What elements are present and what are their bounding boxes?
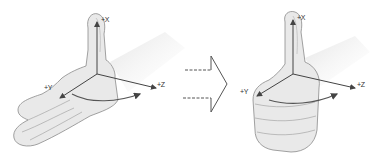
z-axis-label: +Z [357,81,365,88]
thumbs-up-illustration: +X +Y +Z [225,0,375,163]
hand-shape [14,14,118,146]
z-axis-label: +Z [157,81,165,88]
y-axis-label: +Y [240,88,248,95]
y-axis-label: +Y [44,84,52,91]
x-axis-label: +X [297,14,305,21]
x-axis-label: +X [101,16,109,23]
fist-shape [253,11,319,152]
forearm-shape [110,32,185,92]
open-hand-illustration: +X +Y +Z [0,0,190,163]
thumbs-up-drawing [225,0,375,163]
